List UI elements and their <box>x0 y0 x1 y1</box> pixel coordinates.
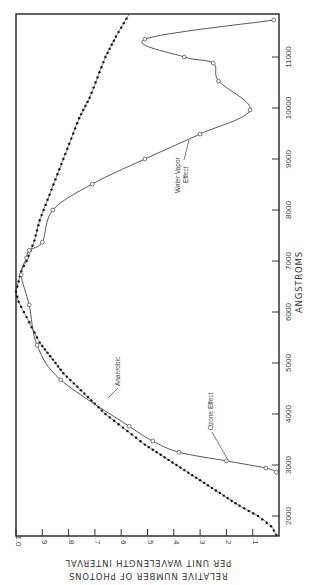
anaerobic-point <box>183 469 185 471</box>
anaerobic-point <box>80 113 82 115</box>
anaerobic-point <box>70 137 72 139</box>
anaerobic-point <box>148 446 150 448</box>
atmospheric-point <box>143 157 147 161</box>
anaerobic-point <box>78 117 80 119</box>
anaerobic-point <box>38 341 40 343</box>
anaerobic-point <box>187 471 189 473</box>
anaerobic-point <box>199 479 201 481</box>
x-tick-label: 9000 <box>284 150 293 168</box>
anaerobic-point <box>44 348 46 350</box>
anaerobic-point <box>139 440 141 442</box>
anaerobic-point <box>152 449 154 451</box>
atmospheric-point <box>127 424 131 428</box>
anaerobic-point <box>60 163 62 165</box>
annotation-ozone: Ozone Effect <box>207 392 228 460</box>
anaerobic-point <box>104 56 106 58</box>
anaerobic-point <box>156 451 158 453</box>
spectrum-chart: 2000300040005000600070008000900010000110… <box>0 0 316 585</box>
y-tick-label: 1.0 <box>14 535 23 547</box>
y-tick-label: .4 <box>172 538 181 545</box>
anaerobic-point <box>102 61 104 63</box>
ozone-leader <box>212 432 228 460</box>
anaerobic-point <box>191 474 193 476</box>
anaerobic-point <box>86 101 88 103</box>
x-tick-label: 10000 <box>284 96 293 119</box>
anaerobic-point <box>215 489 217 491</box>
anaerobic-point <box>56 173 58 175</box>
atmospheric-point <box>248 108 252 112</box>
anaerobic-point <box>66 375 68 377</box>
anaerobic-point <box>31 245 33 247</box>
anaerobic-point <box>135 437 137 439</box>
anaerobic-point <box>108 48 110 50</box>
atmospheric-point <box>182 55 186 59</box>
anaerobic-point <box>66 148 68 150</box>
anaerobic-point <box>58 168 60 170</box>
y-tick-label: .3 <box>198 538 207 545</box>
axis-ticks <box>16 57 279 536</box>
anaerobic-point <box>113 39 115 41</box>
anaerobic-point <box>46 352 48 354</box>
annotation-anaerobic: Anaerobic <box>108 356 121 398</box>
anaerobic-point <box>49 355 51 357</box>
anaerobic-point <box>171 461 173 463</box>
anaerobic-point <box>74 127 76 129</box>
anaerobic-point <box>72 132 74 134</box>
anaerobic-label: Anaerobic <box>114 356 121 386</box>
anaerobic-point <box>42 209 44 211</box>
atmospheric-point <box>274 470 278 474</box>
anaerobic-point <box>17 301 19 303</box>
anaerobic-point <box>62 372 64 374</box>
atmospheric-point <box>51 208 55 212</box>
anaerobic-point <box>98 71 100 73</box>
anaerobic-point <box>109 416 111 418</box>
anaerobic-point <box>211 487 213 489</box>
atmospheric-point <box>40 240 44 244</box>
anaerobic-point <box>25 316 27 318</box>
anaerobic-point <box>115 35 117 37</box>
anaerobic-point <box>92 86 94 88</box>
y-axis-title-line2: PER UNIT WAVELENGTH INTERVAL <box>65 558 232 568</box>
anaerobic-point <box>223 494 225 496</box>
anaerobic-point <box>234 502 236 504</box>
anaerobic-point <box>37 224 39 226</box>
anaerobic-point <box>76 122 78 124</box>
y-tick-label: .9 <box>40 538 49 545</box>
atmospheric-point <box>90 182 94 186</box>
anaerobic-leader <box>108 388 118 398</box>
anaerobic-point <box>50 188 52 190</box>
water-vapor-label-line1: Water Vapor <box>174 156 182 193</box>
anaerobic-point <box>28 321 30 323</box>
anaerobic-point <box>76 386 78 388</box>
x-tick-label: 2000 <box>284 507 293 525</box>
water-vapor-label-line2: Effect <box>182 166 189 183</box>
anaerobic-line <box>16 14 276 535</box>
y-tick-label: .1 <box>251 538 260 545</box>
anaerobic-point <box>266 522 268 524</box>
anaerobic-point <box>113 420 115 422</box>
anaerobic-point <box>126 430 128 432</box>
anaerobic-point <box>90 92 92 94</box>
anaerobic-point <box>84 105 86 107</box>
anaerobic-point <box>60 369 62 371</box>
atmospheric-point <box>25 256 29 260</box>
atmospheric-point <box>217 79 221 83</box>
anaerobic-point <box>219 492 221 494</box>
y-axis-title-line1: RELATIVE NUMBER OF PHOTONS <box>68 571 228 581</box>
anaerobic-point <box>195 477 197 479</box>
anaerobic-point <box>82 109 84 111</box>
axis-tick-labels: 2000300040005000600070008000900010000110… <box>14 46 293 547</box>
anaerobic-point <box>48 194 50 196</box>
anaerobic-point <box>54 362 56 364</box>
anaerobic-point <box>106 52 108 54</box>
anaerobic-point <box>117 31 119 33</box>
atmospheric-point <box>211 61 215 65</box>
water-vapor-leader <box>184 140 189 160</box>
anaerobic-point <box>46 199 48 201</box>
anaerobic-point <box>125 17 127 19</box>
anaerobic-point <box>38 219 40 221</box>
anaerobic-point <box>203 482 205 484</box>
anaerobic-point <box>104 413 106 415</box>
y-tick-label: .6 <box>119 538 128 545</box>
ozone-label: Ozone Effect <box>207 392 214 430</box>
